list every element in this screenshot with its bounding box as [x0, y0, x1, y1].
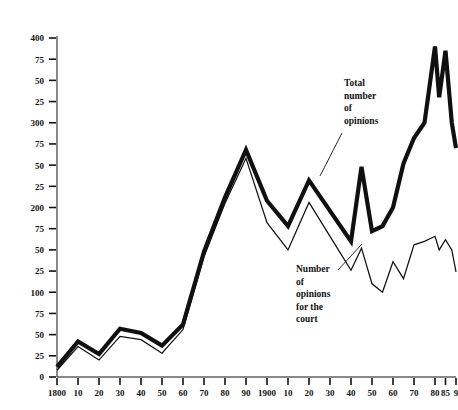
x-tick-label: 10 [284, 388, 294, 398]
y-tick-label: 50 [35, 330, 45, 340]
x-tick-label: 70 [410, 388, 420, 398]
series-line-total-opinions [57, 46, 456, 366]
line-chart: 0255075100255075200255075300255075400 18… [0, 0, 458, 410]
total-opinions-annotation-label: Totalnumberofopinions [344, 78, 379, 126]
annotation-line: opinions [296, 289, 331, 299]
annotation-line: Total [344, 78, 365, 88]
annotation-line: Number [296, 264, 331, 274]
y-tick-label: 400 [31, 33, 45, 43]
x-tick-label: 9 [454, 388, 458, 398]
x-tick-label: 70 [200, 388, 210, 398]
x-tick-label: 40 [137, 388, 147, 398]
x-tick-label: 60 [179, 388, 189, 398]
y-tick-label: 25 [35, 266, 45, 276]
y-tick-label: 100 [31, 288, 45, 298]
x-tick-label: 30 [116, 388, 126, 398]
y-tick-label: 25 [35, 182, 45, 192]
annotation-line: for the [296, 302, 323, 312]
x-tick-label: 50 [368, 388, 378, 398]
y-tick-label: 25 [35, 97, 45, 107]
y-tick-label: 25 [35, 351, 45, 361]
y-tick-label: 200 [31, 203, 45, 213]
x-axis: 1800102030405060708090190010203040506070… [48, 377, 458, 398]
x-tick-label: 20 [95, 388, 105, 398]
y-axis: 0255075100255075200255075300255075400 [31, 33, 58, 382]
y-tick-label: 75 [35, 309, 45, 319]
y-tick-label: 50 [35, 245, 45, 255]
court-opinions-annotation-label: Numberofopinionsfor thecourt [296, 264, 331, 324]
annotation-line: court [296, 314, 318, 324]
x-tick-label: 60 [389, 388, 399, 398]
court-opinions-annotation-leader-line [338, 244, 362, 270]
y-tick-label: 75 [35, 139, 45, 149]
x-tick-label: 85 [441, 388, 451, 398]
y-tick-label: 75 [35, 224, 45, 234]
total-opinions-annotation-leader-line [320, 133, 342, 176]
y-tick-label: 50 [35, 76, 45, 86]
x-tick-label: 80 [431, 388, 441, 398]
x-tick-label: 1900 [258, 388, 277, 398]
x-tick-label: 20 [305, 388, 315, 398]
y-tick-label: 50 [35, 161, 45, 171]
x-tick-label: 50 [158, 388, 168, 398]
y-tick-label: 75 [35, 55, 45, 65]
annotation-line: of [344, 103, 353, 113]
chart-series [57, 46, 456, 370]
chart-container: 0255075100255075200255075300255075400 18… [0, 0, 458, 410]
annotation-line: of [296, 277, 305, 287]
y-tick-label: 0 [40, 372, 45, 382]
y-tick-label: 300 [31, 118, 45, 128]
x-tick-label: 30 [326, 388, 336, 398]
x-tick-label: 1800 [48, 388, 67, 398]
x-tick-label: 40 [347, 388, 357, 398]
annotation-line: opinions [344, 116, 379, 126]
x-tick-label: 10 [74, 388, 84, 398]
x-tick-label: 90 [242, 388, 252, 398]
annotation-line: number [344, 91, 377, 101]
x-tick-label: 80 [221, 388, 231, 398]
